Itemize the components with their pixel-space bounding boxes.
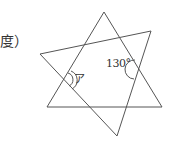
- angle-label-a: ア: [74, 74, 85, 85]
- upright-triangle: [47, 12, 162, 107]
- slanted-triangle: [40, 31, 151, 136]
- two-triangles-figure: [0, 0, 171, 150]
- angle-label-130: 130°: [106, 58, 131, 69]
